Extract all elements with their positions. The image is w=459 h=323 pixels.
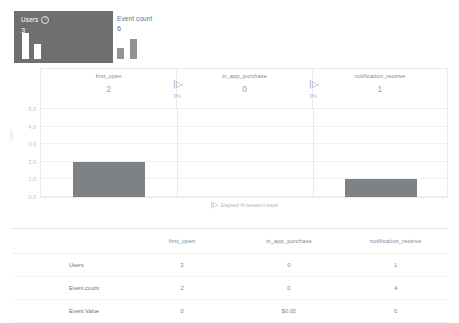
funnel-dropoff-icon: ∣▷	[301, 80, 325, 89]
funnel-step-1-value: 2	[41, 85, 176, 94]
table-header-row: first_open in_app_purchase notification_…	[12, 229, 448, 254]
funnel-dropoff-2-pct: 0%	[301, 94, 325, 99]
column-divider	[313, 108, 314, 197]
table-col-header-in-app-purchase[interactable]: in_app_purchase	[234, 229, 343, 254]
y-axis-title: Users	[8, 129, 14, 143]
table-row: Event count 2 0 4	[12, 277, 448, 300]
y-tick-label: 5.0	[29, 106, 37, 112]
funnel-step-1-name: first_open	[41, 74, 176, 80]
bar-notification-receive[interactable]	[345, 179, 417, 197]
funnel-chart-panel: first_open 2 in_app_purchase 0 notificat…	[40, 68, 448, 214]
funnel-step-header: first_open 2 in_app_purchase 0 notificat…	[40, 68, 448, 108]
spark-bar	[130, 39, 137, 59]
funnel-dropoff-icon: ∣▷	[210, 201, 218, 208]
kpi-event-count-value: 6	[117, 25, 193, 33]
table-col-header-notification-receive[interactable]: notification_receive	[343, 229, 448, 254]
funnel-data-table: first_open in_app_purchase notification_…	[12, 228, 448, 323]
table-cell-event-value-notification-receive: 0	[343, 300, 448, 323]
y-tick-label: 4.0	[29, 124, 37, 130]
funnel-dropoff-2[interactable]: ∣▷ 0%	[301, 80, 325, 99]
gridline: 5.0	[41, 108, 447, 109]
gridline: 3.0	[41, 143, 447, 144]
bar-first-open[interactable]	[73, 162, 145, 197]
y-tick-label: 1.0	[29, 176, 37, 182]
table-row-label-event-count: Event count	[12, 277, 130, 300]
y-tick-label: 2.0	[29, 159, 37, 165]
kpi-card-users[interactable]: Users 3	[14, 11, 113, 63]
kpi-card-event-count[interactable]: Event count 6	[117, 11, 193, 63]
table-cell-users-in-app-purchase: 0	[234, 254, 343, 277]
y-tick-label: 0.0	[29, 194, 37, 200]
funnel-step-2[interactable]: in_app_purchase 0	[176, 69, 311, 108]
chart-legend: ∣▷ Elapsed % between steps	[40, 201, 448, 208]
kpi-event-count-label: Event count	[117, 16, 152, 23]
table-row: Users 2 0 1	[12, 254, 448, 277]
kpi-users-sparkline	[22, 33, 41, 59]
kpi-users-header: Users	[21, 16, 106, 24]
table-row-label-users: Users	[12, 254, 130, 277]
funnel-bar-chart: 5.0 4.0 3.0 2.0 1.0 0.0	[40, 108, 448, 198]
funnel-dropoff-1-pct: 0%	[165, 94, 189, 99]
gridline: 4.0	[41, 126, 447, 127]
info-circle-icon[interactable]	[41, 16, 49, 24]
spark-bar	[34, 44, 41, 59]
table-cell-event-value-in-app-purchase: $0.00	[234, 300, 343, 323]
table-cell-event-count-first-open: 2	[130, 277, 235, 300]
funnel-dropoff-icon: ∣▷	[165, 80, 189, 89]
funnel-step-1[interactable]: first_open 2	[41, 69, 176, 108]
funnel-dropoff-1[interactable]: ∣▷ 0%	[165, 80, 189, 99]
table-cell-event-value-first-open: 0	[130, 300, 235, 323]
table-row: Event Value 0 $0.00 0	[12, 300, 448, 323]
funnel-step-3-value: 1	[313, 85, 447, 94]
funnel-step-3[interactable]: notification_receive 1	[312, 69, 447, 108]
kpi-card-row: Users 3 Event count 6	[0, 0, 459, 68]
table-col-header-metric	[12, 229, 130, 254]
kpi-event-count-header: Event count	[117, 16, 193, 23]
spark-bar	[117, 48, 124, 59]
table-col-header-first-open[interactable]: first_open	[130, 229, 235, 254]
table-cell-users-notification-receive: 1	[343, 254, 448, 277]
y-tick-label: 3.0	[29, 141, 37, 147]
column-divider	[177, 108, 178, 197]
kpi-event-count-sparkline	[117, 33, 137, 59]
spark-bar	[22, 33, 29, 59]
kpi-users-label: Users	[21, 17, 38, 24]
funnel-step-3-name: notification_receive	[313, 74, 447, 80]
table-row-label-event-value: Event Value	[12, 300, 130, 323]
table-cell-event-count-in-app-purchase: 0	[234, 277, 343, 300]
table-cell-event-count-notification-receive: 4	[343, 277, 448, 300]
funnel-step-2-value: 0	[177, 85, 311, 94]
table-cell-users-first-open: 2	[130, 254, 235, 277]
chart-legend-label: Elapsed % between steps	[221, 202, 279, 208]
funnel-step-2-name: in_app_purchase	[177, 74, 311, 80]
